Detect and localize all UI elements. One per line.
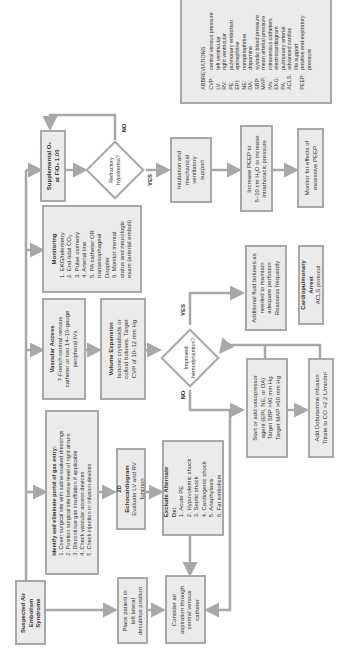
monitoring-item: 3. Pulse oximetry — [73, 220, 81, 278]
additional-fluid-box: Additional fluid boluses as needed to ma… — [245, 245, 287, 331]
monitoring-item: 1. EKG/telemetry — [58, 220, 66, 278]
monitoring-item: status and neurologic — [118, 220, 126, 278]
exclude-alternate-item: 6. Fat embolism — [216, 459, 224, 517]
volume-expansion-box: Volume Expansion Isotonic crystalloids o… — [100, 298, 146, 400]
monitoring-item: transesophageal — [96, 220, 104, 278]
refractory-yes-label: YES — [147, 174, 153, 186]
start-line: Syndrome — [34, 592, 42, 632]
identify-portal-item: 3. Discontinue gas insufflation if appli… — [72, 430, 79, 555]
vasopressor-box: Start or add vasopressor agent (EPI, NE,… — [246, 358, 288, 458]
additional-fluid-line: Additional fluid boluses as — [251, 253, 259, 322]
echo-title: 2D Echocardiogram — [116, 462, 131, 515]
monitoring-item: 6. Monitor mental — [111, 220, 119, 278]
echo-line: function — [139, 462, 147, 515]
intubation-line: support — [199, 151, 207, 189]
identify-portal-title: Identify and eliminate portal of gas ent… — [51, 430, 58, 555]
vascular-access-title: Vascular Access — [49, 311, 57, 388]
abbr-row: pressure — [306, 12, 312, 90]
vasopressor-line: Target SBP >90 mm Hg — [267, 375, 275, 441]
exclude-alternate-item: 1. Acute PE — [178, 459, 186, 517]
left-lateral-line: Place patient in — [121, 586, 129, 634]
refractory-hypoxemia-label: Refractory hypoxemia? — [108, 155, 122, 185]
exclude-alternate-item: 4. Cardiogenic shock — [201, 459, 209, 517]
abbr-key — [306, 70, 312, 90]
intubation-line: Intubation and — [176, 151, 184, 189]
improved-hemodynamics-label: Improved hemodynamics? — [183, 338, 197, 378]
vasopressor-line: Target MAP >60 mm Hg — [275, 375, 283, 441]
refractory-no-label: NO — [121, 124, 127, 133]
decision-line: hypoxemia? — [115, 155, 122, 185]
monitoring-box: Monitoring 1. EKG/telemetry 2. End-tidal… — [42, 205, 142, 293]
flowchart-canvas: Suspected Air Embolism Syndrome Identify… — [0, 0, 350, 660]
improved-yes-label: YES — [180, 304, 186, 316]
start-line: Suspected Air — [19, 592, 27, 632]
dobutamine-line: Add Dobutamine infusion — [314, 372, 322, 445]
exclude-alternate-title: Exclude Alternate Dx: — [163, 459, 178, 517]
exclude-alternate-item: 3. Septic shock — [193, 459, 201, 517]
abbr-value: pressure — [306, 49, 312, 70]
supplemental-o2-line: at FiO₂ 1.00 — [53, 142, 61, 190]
increase-peep-line: Increase PEEP to — [245, 135, 253, 202]
vascular-access-box: Vascular Access 7-French central venous … — [42, 298, 86, 400]
decision-line: hemodynamics? — [190, 338, 197, 378]
consider-aspiration-line: catheter — [193, 585, 201, 633]
vasopressor-line: agent (EPI, NE, or DA) — [260, 375, 268, 441]
monitoring-item: 5. PA catheter OR — [88, 220, 96, 278]
cardiopulmonary-arrest-box: Cardiopulmonary Arrest ACLS protocol — [298, 245, 324, 325]
consider-aspiration-line: Consider air — [171, 585, 179, 633]
additional-fluid-line: adequate perfusion — [266, 253, 274, 322]
identify-portal-item: 5. Check injection or infusion devices — [86, 430, 93, 555]
start-line: Embolism — [27, 592, 35, 632]
identify-portal-item: 2. Position surgical site below level of… — [65, 430, 72, 555]
identify-portal-box: Identify and eliminate portal of gas ent… — [45, 410, 99, 575]
monitoring-item: 4. Arterial line — [81, 220, 89, 278]
dobutamine-box: Add Dobutamine infusion Titrate to CO >2… — [308, 358, 334, 458]
increase-peep-line: intrathoracic pressure — [260, 135, 268, 202]
monitor-peep-line: excessive PEEP — [311, 141, 319, 196]
volume-expansion-title: Volume Expansion — [108, 319, 116, 378]
volume-expansion-line: CVP of 10–12 mm Hg — [131, 319, 139, 378]
identify-portal-item: 1. Cover surgical site with saline-soake… — [58, 430, 65, 555]
additional-fluid-line: Reassess frequently — [274, 253, 282, 322]
cardiopulmonary-arrest-title: Cardiopulmonary Arrest — [300, 260, 315, 310]
intubation-line: mechanical — [184, 151, 192, 189]
supplemental-o2-box: Supplemental O₂ at FiO₂ 1.00 — [40, 130, 66, 202]
monitoring-item: Doppler — [103, 220, 111, 278]
monitor-peep-line: Monitor for effects of — [303, 141, 311, 196]
intubation-line: ventilatory — [191, 151, 199, 189]
supplemental-o2-line: Supplemental O₂ — [46, 142, 54, 190]
abbreviations-legend: ABBREVIATIONS CVP:central venous pressur… — [180, 0, 332, 104]
improved-no-label: NO — [180, 391, 186, 400]
echocardiogram-box: 2D Echocardiogram Evaluate LV and RV fun… — [116, 448, 146, 530]
vascular-access-line: peripheral IVs — [72, 311, 80, 388]
start-box-suspected-air-embolism: Suspected Air Embolism Syndrome — [15, 580, 46, 645]
exclude-alternate-dx-box: Exclude Alternate Dx: 1. Acute PE 2. Hyp… — [162, 440, 224, 536]
decision-line: Refractory — [108, 155, 115, 185]
monitor-peep-box: Monitor for effects of excessive PEEP — [297, 128, 324, 208]
intubation-box: Intubation and mechanical ventilatory su… — [170, 137, 212, 203]
vascular-access-line: 7-French central venous — [57, 311, 65, 388]
consider-air-aspiration-box: Consider air aspiration through central … — [165, 575, 206, 644]
consider-aspiration-line: aspiration through — [178, 585, 186, 633]
left-lateral-line: left lateral — [129, 586, 137, 634]
dobutamine-line: Titrate to CO >2.2 L/min/m² — [321, 372, 329, 445]
additional-fluid-line: needed to maintain — [259, 253, 267, 322]
consider-aspiration-line: central venous — [186, 585, 194, 633]
increase-peep-box: Increase PEEP to 5–10 cm H₂O to increase… — [240, 125, 273, 212]
monitoring-item: exam (arterial emboli) — [126, 220, 134, 278]
volume-expansion-line: Isotonic crystalloids or — [116, 319, 124, 378]
cardiopulmonary-arrest-line: ACLS protocol — [315, 260, 323, 310]
exclude-alternate-item: 2. Hypovolemic shock — [186, 459, 194, 517]
identify-portal-item: 4. Check vascular access devices — [79, 430, 86, 555]
vasopressor-line: Start or add vasopressor — [252, 375, 260, 441]
left-lateral-decubitus-box: Place patient in left lateral decubitus … — [117, 577, 148, 644]
volume-expansion-line: colloid boluses. Target — [123, 319, 131, 378]
increase-peep-line: 5–10 cm H₂O to increase — [253, 135, 261, 202]
monitoring-title: Monitoring — [51, 220, 59, 278]
left-lateral-line: decubitus position — [136, 586, 144, 634]
monitoring-item: 2. End-tidal CO₂ — [66, 220, 74, 278]
abbreviations-title: ABBREVIATIONS — [200, 12, 206, 90]
exclude-alternate-item: 5. Anaphylaxis — [208, 459, 216, 517]
echo-line: Evaluate LV and RV — [131, 462, 139, 515]
decision-line: Improved — [183, 338, 190, 378]
